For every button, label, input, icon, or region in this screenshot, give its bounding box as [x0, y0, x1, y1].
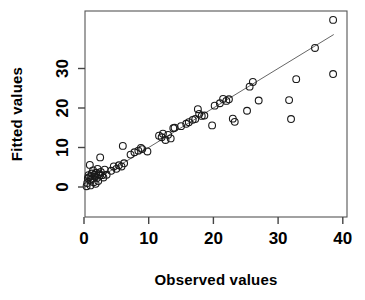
data-point	[255, 97, 262, 104]
y-tick-label: 10	[53, 138, 72, 157]
x-tick-label: 20	[204, 229, 223, 248]
data-point	[119, 143, 126, 150]
data-point	[330, 71, 337, 78]
x-tick-label: 10	[139, 229, 158, 248]
y-tick-label: 0	[53, 182, 72, 191]
data-point	[286, 97, 293, 104]
data-points-group	[83, 17, 336, 190]
x-axis-title: Observed values	[154, 271, 277, 288]
data-point	[330, 17, 337, 24]
y-axis-title: Fitted values	[8, 67, 25, 161]
data-point	[209, 122, 216, 129]
data-point	[244, 107, 251, 114]
data-point	[246, 83, 253, 90]
y-tick-label: 30	[53, 59, 72, 78]
data-point	[194, 106, 201, 113]
data-point	[97, 154, 104, 161]
x-tick-label: 40	[333, 229, 352, 248]
data-point	[288, 116, 295, 123]
x-tick-label: 30	[269, 229, 288, 248]
y-tick-label: 20	[53, 99, 72, 118]
scatter-plot-figure: 0102030 010203040 Observed values Fitted…	[0, 0, 365, 300]
plot-canvas: 0102030 010203040 Observed values Fitted…	[0, 0, 365, 300]
data-point	[293, 76, 300, 83]
x-axis-ticks: 010203040	[79, 217, 352, 248]
plot-frame	[85, 11, 347, 217]
x-tick-label: 0	[79, 229, 88, 248]
y-axis-ticks: 0102030	[53, 59, 86, 192]
